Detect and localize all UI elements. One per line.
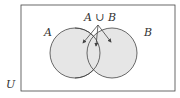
venn-diagram: A ∪ B A B U	[0, 0, 180, 98]
universe-label: U	[6, 78, 16, 91]
union-label: A ∪ B	[83, 11, 116, 24]
set-b-label: B	[143, 26, 152, 39]
set-a-label: A	[43, 26, 52, 39]
